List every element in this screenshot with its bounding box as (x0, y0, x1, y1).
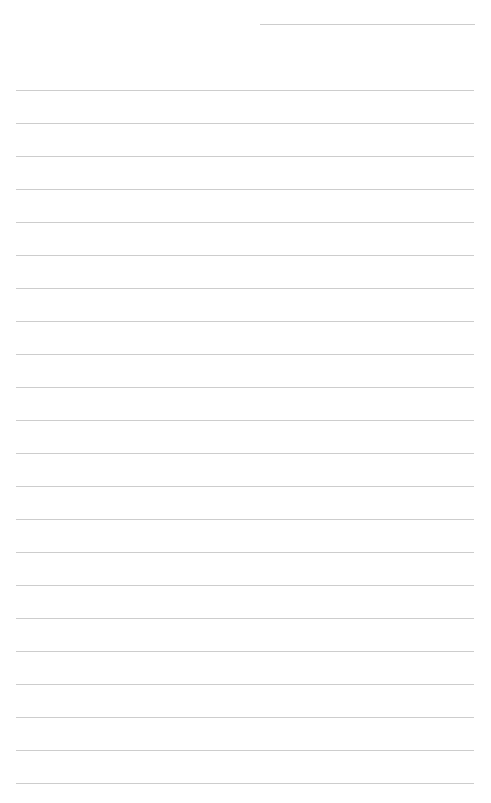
ruled-line (16, 717, 474, 718)
ruled-line (16, 585, 474, 586)
ruled-line (16, 123, 474, 124)
ruled-line (16, 519, 474, 520)
ruled-line (16, 552, 474, 553)
ruled-line (16, 783, 474, 784)
ruled-line (16, 453, 474, 454)
ruled-line (16, 222, 474, 223)
ruled-line (16, 255, 474, 256)
ruled-line (16, 156, 474, 157)
ruled-line (16, 90, 474, 91)
ruled-line (16, 651, 474, 652)
ruled-line (16, 420, 474, 421)
ruled-line (16, 321, 474, 322)
ruled-line (16, 486, 474, 487)
ruled-line (16, 750, 474, 751)
ruled-line (16, 288, 474, 289)
header-date-line (260, 24, 475, 25)
ruled-line (16, 618, 474, 619)
ruled-line (16, 354, 474, 355)
ruled-line (16, 684, 474, 685)
ruled-line (16, 189, 474, 190)
ruled-line (16, 387, 474, 388)
